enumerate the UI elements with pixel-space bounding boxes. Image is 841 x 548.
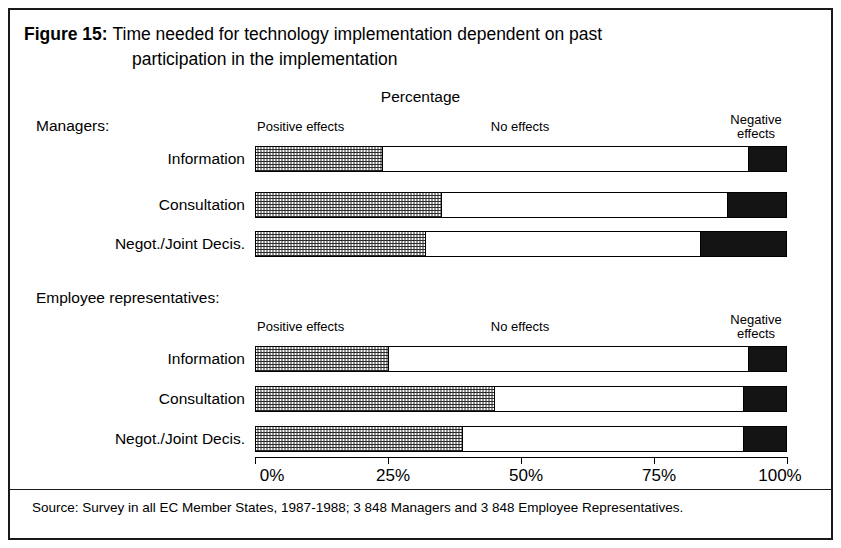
stacked-bar-employees-consultation[interactable] (255, 386, 787, 412)
bar-row-employees-information: Information (255, 346, 787, 372)
bar-segment-no-effects (389, 347, 749, 371)
bar-label-employees-negotiation: Negot./Joint Decis. (115, 426, 255, 452)
legend-none-managers: No effects (455, 120, 585, 134)
bar-segment-positive (256, 193, 442, 217)
bar-label-employees-consultation: Consultation (159, 386, 255, 412)
stacked-bar-managers-consultation[interactable] (255, 192, 787, 218)
bar-segment-positive (256, 427, 463, 451)
source-note: Source: Survey in all EC Member States, … (32, 500, 683, 515)
legend-none-employees: No effects (455, 320, 585, 334)
bar-row-employees-negotiation: Negot./Joint Decis. (255, 426, 787, 452)
x-axis-label-0: 0% (260, 466, 285, 486)
source-divider (10, 489, 831, 490)
bar-segment-positive (256, 147, 383, 171)
group-heading-managers: Managers: (36, 117, 109, 135)
bar-row-managers-consultation: Consultation (255, 192, 787, 218)
bar-segment-negative (744, 427, 786, 451)
bar-segment-no-effects (495, 387, 744, 411)
legend-negative-employees: Negative effects (716, 313, 796, 341)
figure-title-line-2: participation in the implementation (24, 47, 804, 72)
x-axis-tick-100 (787, 457, 788, 464)
axis-caption-percentage: Percentage (0, 88, 841, 106)
stacked-bar-managers-information[interactable] (255, 146, 787, 172)
figure-title-block: Figure 15: Time needed for technology im… (24, 22, 804, 72)
bar-segment-negative (701, 232, 786, 256)
figure-number-label: Figure 15: (24, 24, 108, 44)
legend-negative-managers-line1: Negative (716, 113, 796, 127)
figure-title-text-2: participation in the implementation (132, 49, 398, 69)
bar-label-employees-information: Information (167, 346, 255, 372)
figure-title-text-1: Time needed for technology implementatio… (113, 24, 603, 44)
figure-container: Figure 15: Time needed for technology im… (0, 0, 841, 548)
stacked-bar-employees-negotiation[interactable] (255, 426, 787, 452)
stacked-bar-managers-negotiation[interactable] (255, 231, 787, 257)
bar-label-managers-information: Information (167, 146, 255, 172)
bar-row-employees-consultation: Consultation (255, 386, 787, 412)
group-heading-employee-representatives: Employee representatives: (36, 289, 220, 307)
bar-segment-no-effects (463, 427, 744, 451)
legend-negative-managers: Negative effects (716, 113, 796, 141)
bar-segment-positive (256, 232, 426, 256)
legend-negative-managers-line2: effects (716, 127, 796, 141)
x-axis-label-50: 50% (509, 466, 543, 486)
bar-segment-negative (728, 193, 786, 217)
figure-title-line-1: Figure 15: Time needed for technology im… (24, 22, 804, 47)
bar-segment-no-effects (442, 193, 728, 217)
bar-segment-no-effects (426, 232, 702, 256)
x-axis-tick-50 (521, 457, 522, 464)
bar-row-managers-information: Information (255, 146, 787, 172)
bar-segment-positive (256, 387, 495, 411)
bar-segment-negative (744, 387, 786, 411)
x-axis-label-75: 75% (642, 466, 676, 486)
legend-positive-employees: Positive effects (257, 320, 344, 334)
x-axis-label-100: 100% (758, 466, 801, 486)
legend-negative-employees-line1: Negative (716, 313, 796, 327)
legend-positive-managers: Positive effects (257, 120, 344, 134)
legend-negative-employees-line2: effects (716, 327, 796, 341)
bar-segment-negative (749, 347, 786, 371)
bar-label-managers-consultation: Consultation (159, 192, 255, 218)
bar-row-managers-negotiation: Negot./Joint Decis. (255, 231, 787, 257)
bar-segment-negative (749, 147, 786, 171)
x-axis-tick-75 (654, 457, 655, 464)
bar-label-managers-negotiation: Negot./Joint Decis. (115, 231, 255, 257)
bar-segment-no-effects (383, 147, 749, 171)
x-axis-label-25: 25% (376, 466, 410, 486)
stacked-bar-employees-information[interactable] (255, 346, 787, 372)
x-axis-tick-0 (255, 457, 256, 464)
bar-segment-positive (256, 347, 389, 371)
x-axis-tick-25 (388, 457, 389, 464)
